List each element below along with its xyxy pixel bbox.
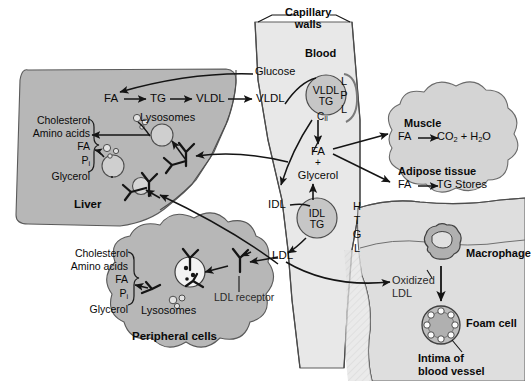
- lpl-letter-1: P: [340, 89, 347, 101]
- intima-line2: blood vessel: [418, 365, 485, 377]
- capillary-walls-label: Capillary walls: [285, 7, 331, 30]
- muscle-substrate: FA: [398, 130, 411, 142]
- peripheral-lysosomes-label: Lysosomes: [141, 305, 196, 317]
- peripheral-product-cholesterol: Cholesterol: [75, 247, 128, 259]
- liver-product-pi: Pi: [81, 154, 90, 166]
- foam-cell-icon: [422, 306, 460, 344]
- ldl-receptor-label: LDL receptor: [214, 292, 274, 303]
- apoc2-label: CII: [317, 112, 328, 123]
- htgl-letter-1: T: [354, 214, 361, 226]
- adipose-product: TG Stores: [437, 178, 487, 190]
- idl-particle-label: IDL TG: [299, 208, 335, 230]
- adipose-substrate: FA: [398, 178, 411, 190]
- foam-cell-label: Foam cell: [466, 318, 517, 330]
- htgl-letter-3: L: [354, 242, 360, 254]
- adipose-reaction: FA TG Stores: [398, 179, 487, 191]
- liver-product-amino-acids: Amino acids: [33, 127, 90, 139]
- muscle-reaction: FA CO2 + H2O: [398, 131, 491, 143]
- lpl-label: L P L: [337, 74, 351, 116]
- capillary-walls-line2: walls: [295, 18, 322, 30]
- blood-vldl-label: VLDL: [256, 92, 285, 104]
- muscle-label: Muscle: [404, 118, 441, 130]
- liver-label: Liver: [74, 198, 102, 210]
- liver-fa-label: FA: [104, 92, 118, 104]
- peripheral-products-list: Cholesterol Amino acids FA Pi Glycerol: [60, 247, 128, 317]
- oxidized-ldl-line2: LDL: [392, 287, 412, 299]
- peripheral-product-glycerol: Glycerol: [89, 303, 128, 315]
- oxidized-ldl-label: Oxidized LDL: [392, 274, 435, 300]
- intima-label: Intima of blood vessel: [418, 352, 485, 378]
- htgl-letter-2: G: [353, 228, 362, 240]
- capillary-walls-line1: Capillary: [285, 6, 331, 18]
- peripheral-product-pi: Pi: [119, 287, 128, 299]
- peripheral-product-fa: FA: [115, 273, 128, 285]
- vldl-particle-line2: TG: [319, 95, 334, 107]
- lpl-letter-0: L: [341, 75, 347, 87]
- muscle-product-h2o: H2O: [470, 130, 491, 142]
- blood-plus-label: +: [305, 158, 331, 169]
- oxidized-ldl-line1: Oxidized: [392, 274, 435, 286]
- muscle-plus: +: [461, 130, 467, 142]
- blood-fa-label: FA: [305, 145, 331, 157]
- liver-vldl-label: VLDL: [196, 92, 225, 104]
- liver-product-glycerol: Glycerol: [51, 170, 90, 182]
- intima-line1: Intima of: [418, 352, 464, 364]
- muscle-product-co2: CO2: [437, 130, 458, 142]
- htgl-label: H T G L: [350, 199, 364, 255]
- glucose-label: Glucose: [255, 66, 295, 78]
- adipose-label: Adipose tissue: [398, 166, 476, 178]
- idl-label: IDL: [268, 198, 286, 210]
- peripheral-cells-label: Peripheral cells: [132, 330, 217, 342]
- idl-particle-line2: TG: [310, 218, 325, 230]
- liver-lysosomes-label: Lysosomes: [140, 112, 195, 124]
- macrophage-icon: [424, 224, 461, 259]
- peripheral-product-amino-acids: Amino acids: [71, 260, 128, 272]
- htgl-letter-0: H: [353, 200, 361, 212]
- ldl-label: LDL: [272, 249, 293, 261]
- apoc2-sub: II: [324, 115, 328, 122]
- blood-glycerol-label: Glycerol: [292, 170, 344, 182]
- blood-label: Blood: [305, 48, 336, 60]
- liver-tg-label: TG: [150, 92, 166, 104]
- lpl-letter-2: L: [341, 103, 347, 115]
- macrophage-label: Macrophage: [466, 248, 531, 260]
- liver-product-cholesterol: Cholesterol: [37, 114, 90, 126]
- liver-product-fa: FA: [77, 140, 90, 152]
- liver-products-list: Cholesterol Amino acids FA Pi Glycerol: [22, 114, 90, 184]
